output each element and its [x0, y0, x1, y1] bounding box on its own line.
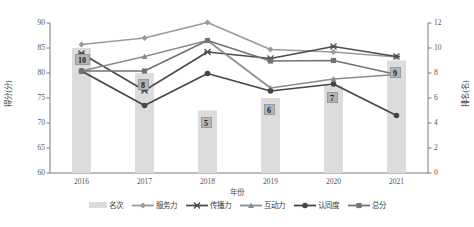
marker-diamond	[140, 202, 146, 208]
marker-circle	[268, 88, 274, 94]
legend-item-名次[interactable]: 名次	[89, 199, 123, 210]
marker-diamond	[268, 47, 274, 53]
legend-bar-swatch	[89, 202, 107, 208]
legend-line-swatch	[294, 201, 316, 209]
bar-value-label: 9	[390, 67, 401, 78]
marker-square	[331, 58, 336, 63]
bar-value-label: 7	[327, 92, 338, 103]
legend-line-swatch	[240, 201, 262, 209]
legend-item-服务力[interactable]: 服务力	[132, 199, 177, 210]
marker-x	[204, 49, 211, 55]
legend-line-swatch	[132, 201, 154, 209]
marker-circle	[302, 202, 308, 208]
legend-label: 传播力	[210, 199, 231, 210]
legend-line-swatch	[186, 201, 208, 209]
marker-circle	[205, 71, 211, 77]
marker-square	[268, 58, 273, 63]
marker-square	[205, 38, 210, 43]
legend-label: 名次	[109, 199, 123, 210]
series-circle	[79, 68, 400, 118]
series-square	[79, 38, 399, 77]
marker-square	[142, 68, 147, 73]
chart-legend: 名次服务力传播力互动力认同度总分	[0, 199, 474, 210]
marker-diamond	[142, 35, 148, 41]
marker-diamond	[79, 42, 85, 48]
marker-x	[193, 202, 200, 208]
marker-circle	[394, 113, 400, 119]
marker-circle	[142, 103, 148, 109]
legend-line-swatch	[348, 201, 370, 209]
bar-value-label: 8	[138, 79, 149, 90]
marker-square	[79, 68, 84, 73]
bar-value-label: 10	[75, 54, 90, 65]
legend-item-总分[interactable]: 总分	[348, 199, 386, 210]
marker-square	[356, 202, 361, 207]
legend-label: 服务力	[156, 199, 177, 210]
legend-label: 认同度	[318, 199, 339, 210]
marker-diamond	[331, 49, 337, 55]
series-line	[82, 23, 397, 58]
marker-diamond	[205, 20, 211, 26]
series-diamond	[79, 20, 400, 61]
legend-item-认同度[interactable]: 认同度	[294, 199, 339, 210]
combo-chart: 得分(分) 排名(名) 年份 60657075808590 024681012 …	[0, 0, 474, 227]
plot-area	[0, 0, 474, 227]
legend-item-传播力[interactable]: 传播力	[186, 199, 231, 210]
bar-value-label: 5	[201, 117, 212, 128]
bar	[72, 48, 91, 173]
bar-value-label: 6	[264, 104, 275, 115]
legend-item-互动力[interactable]: 互动力	[240, 199, 285, 210]
marker-circle	[331, 81, 337, 87]
marker-x	[330, 44, 337, 50]
series-line	[82, 41, 397, 75]
legend-label: 互动力	[264, 199, 285, 210]
legend-label: 总分	[372, 199, 386, 210]
